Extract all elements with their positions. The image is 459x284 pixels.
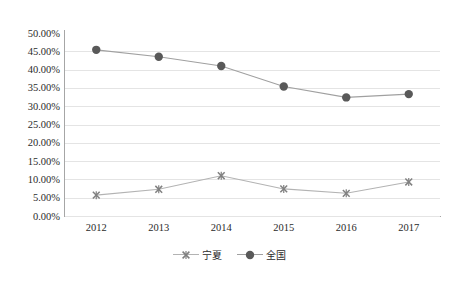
x-axis-tick-label: 2013 (128, 222, 190, 234)
data-point-marker (182, 251, 189, 259)
data-point-marker (92, 46, 100, 54)
legend-entry[interactable]: 宁夏 (173, 247, 223, 262)
y-axis-tick-label: 10.00% (2, 174, 60, 185)
y-axis-tick-label: 5.00% (2, 192, 60, 203)
series-line (96, 176, 409, 195)
y-axis-tick-label: 40.00% (2, 64, 60, 75)
y-axis-tick-label: 45.00% (2, 46, 60, 57)
y-axis-tick-label: 15.00% (2, 156, 60, 167)
y-axis-tick-label: 50.00% (2, 28, 60, 39)
legend-label: 全国 (266, 247, 287, 262)
data-point-marker (280, 82, 288, 90)
plot-area (65, 33, 440, 216)
line-chart: 50.00%45.00%40.00%35.00%30.00%25.00%20.0… (0, 0, 459, 284)
series-line (96, 50, 409, 98)
series-layer (65, 33, 440, 216)
chart-legend: 宁夏全国 (0, 247, 459, 262)
y-axis-tick-label: 20.00% (2, 137, 60, 148)
x-axis-tick-label: 2012 (65, 222, 127, 234)
legend-label: 宁夏 (202, 247, 223, 262)
y-axis-tick-label: 35.00% (2, 82, 60, 93)
data-point-marker (155, 53, 163, 61)
gridline (65, 216, 440, 217)
legend-entry[interactable]: 全国 (237, 247, 287, 262)
x-axis-tick-label: 2016 (315, 222, 377, 234)
y-axis-tick-labels: 50.00%45.00%40.00%35.00%30.00%25.00%20.0… (0, 0, 60, 284)
x-axis-tick-label: 2017 (378, 222, 440, 234)
x-axis-tick-label: 2015 (253, 222, 315, 234)
data-point-marker (342, 93, 350, 101)
x-axis-tick-label: 2014 (190, 222, 252, 234)
filled-circle-marker (237, 250, 263, 260)
y-axis-tick-label: 0.00% (2, 211, 60, 222)
data-point-marker (217, 62, 225, 70)
x-marker (173, 250, 199, 260)
y-axis-tick-label: 30.00% (2, 101, 60, 112)
y-axis-tick-label: 25.00% (2, 119, 60, 130)
data-point-marker (405, 90, 413, 98)
data-point-marker (245, 250, 253, 258)
